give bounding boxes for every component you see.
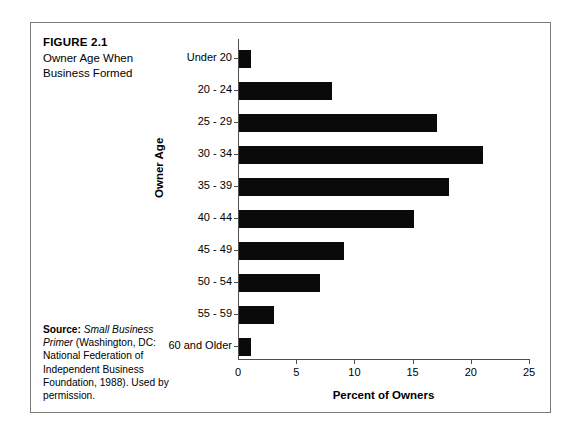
- bar-row: Under 20: [238, 43, 534, 75]
- bar-row: 30 - 34: [238, 139, 534, 171]
- bar: [239, 242, 344, 260]
- x-axis-tick: [296, 359, 297, 364]
- bar: [239, 114, 437, 132]
- bar: [239, 210, 414, 228]
- category-label: 60 and Older: [82, 339, 232, 351]
- x-axis-tick-label: 20: [456, 366, 486, 378]
- x-axis-title: Percent of Owners: [238, 389, 529, 401]
- category-label: 50 - 54: [82, 275, 232, 287]
- figure-number: FIGURE 2.1: [43, 35, 178, 50]
- x-axis-tick: [354, 359, 355, 364]
- bar-chart-plot: Under 2020 - 2425 - 2930 - 3435 - 3940 -…: [238, 39, 534, 359]
- bar-row: 20 - 24: [238, 75, 534, 107]
- x-axis-tick-label: 25: [514, 366, 544, 378]
- x-axis-tick: [529, 359, 530, 364]
- category-label: 40 - 44: [82, 211, 232, 223]
- bar-row: 55 - 59: [238, 299, 534, 331]
- source-note: Source: Small Business Primer (Washingto…: [43, 323, 181, 402]
- bar-row: 45 - 49: [238, 235, 534, 267]
- bar: [239, 306, 274, 324]
- bar: [239, 50, 251, 68]
- figure-panel: FIGURE 2.1 Owner Age When Business Forme…: [30, 22, 551, 413]
- bar: [239, 338, 251, 356]
- category-label: 20 - 24: [82, 83, 232, 95]
- bar-row: 50 - 54: [238, 267, 534, 299]
- source-label: Source:: [43, 324, 81, 335]
- bar: [239, 178, 449, 196]
- bar: [239, 82, 332, 100]
- x-axis-tick-label: 10: [339, 366, 369, 378]
- bar: [239, 146, 483, 164]
- category-label: 55 - 59: [82, 307, 232, 319]
- bar-row: 25 - 29: [238, 107, 534, 139]
- figure-title-line-2: Business Formed: [43, 67, 132, 79]
- bar: [239, 274, 320, 292]
- bar-row: 40 - 44: [238, 203, 534, 235]
- x-axis-tick: [471, 359, 472, 364]
- category-label: 25 - 29: [82, 115, 232, 127]
- category-label: 45 - 49: [82, 243, 232, 255]
- x-axis-tick-label: 5: [281, 366, 311, 378]
- y-axis-title: Owner Age: [153, 138, 165, 198]
- x-axis-tick-label: 0: [223, 366, 253, 378]
- x-axis-tick: [413, 359, 414, 364]
- category-label: Under 20: [82, 51, 232, 63]
- bar-row: 35 - 39: [238, 171, 534, 203]
- bar-row: 60 and Older: [238, 331, 534, 363]
- x-axis-tick-label: 15: [398, 366, 428, 378]
